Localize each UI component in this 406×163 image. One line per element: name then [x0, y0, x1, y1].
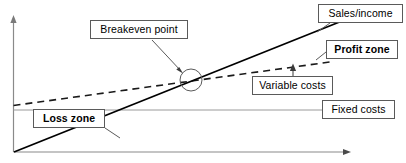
- breakeven-leader-arrow-icon: [176, 67, 183, 74]
- volume-axis-arrow-icon: [343, 149, 351, 155]
- variable-costs-leader-line: [290, 64, 296, 77]
- label-profit-zone[interactable]: Profit zone: [326, 40, 398, 59]
- chart-canvas: [0, 0, 406, 163]
- label-loss-zone[interactable]: Loss zone: [33, 109, 105, 128]
- label-sales-income[interactable]: Sales/income: [318, 4, 403, 23]
- value-axis: [10, 15, 16, 152]
- breakeven-leader-stroke: [152, 40, 181, 71]
- value-axis-arrow-icon: [10, 15, 16, 23]
- breakeven-chart: Breakeven point Sales/income Profit zone…: [0, 0, 406, 163]
- loss-zone-leader-line: [105, 128, 120, 138]
- volume-axis: [14, 149, 352, 155]
- label-fixed-costs[interactable]: Fixed costs: [322, 100, 395, 119]
- label-variable-costs[interactable]: Variable costs: [252, 76, 333, 95]
- profit-zone-leader-line: [316, 52, 326, 60]
- breakeven-leader-line: [152, 40, 183, 74]
- label-breakeven-point[interactable]: Breakeven point: [90, 20, 188, 39]
